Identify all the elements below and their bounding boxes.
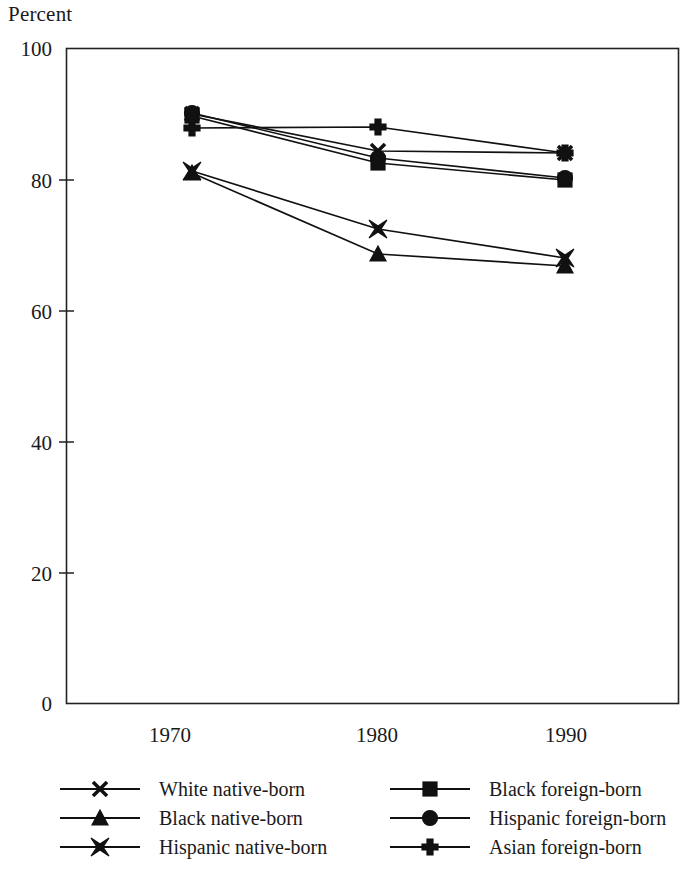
circle-icon: [423, 811, 438, 826]
x-tick-label-1980: 1980: [356, 723, 398, 747]
x-tick-label-1990: 1990: [545, 723, 587, 747]
legend-label-white-native-born: White native-born: [159, 778, 305, 800]
y-tick-label-100: 100: [21, 37, 53, 61]
y-tick-label-60: 60: [31, 300, 52, 324]
legend-item-hispanic-native-born: Hispanic native-born: [60, 836, 327, 859]
legend-item-hispanic-foreign-born: Hispanic foreign-born: [390, 807, 666, 830]
legend-item-asian-foreign-born: Asian foreign-born: [390, 836, 642, 859]
legend-label-asian-foreign-born: Asian foreign-born: [489, 836, 642, 859]
y-axis-tick-labels: 100 80 60 40 20 0: [21, 37, 53, 716]
x-tick-label-1970: 1970: [149, 723, 191, 747]
y-tick-label-20: 20: [31, 562, 52, 586]
legend-item-white-native-born: White native-born: [60, 778, 305, 800]
legend-label-hispanic-foreign-born: Hispanic foreign-born: [489, 807, 666, 830]
legend-left-column: White native-born Black native-born Hisp…: [60, 778, 327, 859]
chart-plot: 100 80 60 40 20 0 1970 1980 1990: [0, 0, 697, 876]
plus-icon: [422, 839, 438, 855]
legend-item-black-native-born: Black native-born: [60, 807, 303, 829]
y-tick-label-0: 0: [42, 692, 53, 716]
marker-black-native-born: [184, 165, 573, 273]
legend-label-hispanic-native-born: Hispanic native-born: [159, 836, 327, 859]
series-line-hispanic-native-born: [192, 171, 565, 258]
series-markers: [183, 106, 574, 274]
legend-label-black-foreign-born: Black foreign-born: [489, 778, 642, 801]
y-tick-label-80: 80: [31, 169, 52, 193]
legend-label-black-native-born: Black native-born: [159, 807, 303, 829]
square-icon: [423, 782, 437, 796]
chart-container: Percent 100 80 60 40 20 0 1970 1980 1990: [0, 0, 697, 876]
y-tick-label-40: 40: [31, 431, 52, 455]
x-axis-tick-labels: 1970 1980 1990: [149, 723, 587, 747]
series-lines: [192, 113, 565, 266]
legend-item-black-foreign-born: Black foreign-born: [390, 778, 642, 801]
legend-right-column: Black foreign-born Hispanic foreign-born…: [390, 778, 666, 859]
